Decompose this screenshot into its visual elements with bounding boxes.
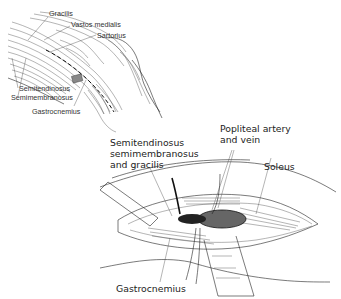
inset-label-vastus-medialis: Vastos medialis [71,20,121,29]
label-hamstrings-line3: and gracilis [110,159,164,170]
label-popliteal-line1: Popliteal artery [220,123,291,134]
inset-label-gracilis: Gracilis [49,9,73,18]
inset-diagram: Gracilis Vastos medialis Sartorius Semit… [8,9,162,132]
anatomy-figure: Gracilis Vastos medialis Sartorius Semit… [0,0,341,299]
label-hamstrings-line1: Semitendinosus [110,137,184,148]
inset-label-gastrocnemius: Gastrocnemius [32,107,81,116]
label-hamstrings-line2: semimembranosus [110,148,199,159]
inset-label-semitendinosus: Semitendinosus [19,84,71,93]
label-gastrocnemius: Gastrocnemius [116,283,186,294]
main-diagram: Semitendinosus semimembranosus and graci… [100,123,336,296]
inset-label-sartorius: Sartorius [97,31,126,40]
label-soleus: Soleus [264,161,295,172]
label-popliteal-line2: and vein [220,134,260,145]
inset-label-semimembranosus: Semimembranosus [11,93,73,102]
